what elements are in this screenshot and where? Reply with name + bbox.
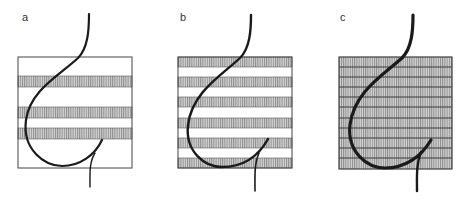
panel-label: a bbox=[22, 11, 29, 23]
panel-c: c bbox=[339, 11, 452, 191]
hatched-stripe bbox=[18, 128, 132, 139]
panel-b: b bbox=[178, 11, 292, 191]
hatched-stripe bbox=[18, 76, 132, 87]
hatched-stripe bbox=[18, 107, 132, 118]
panel-a: a bbox=[18, 11, 132, 187]
panel-label: c bbox=[340, 11, 346, 23]
figure-three-panel-hatch-diagram: abc bbox=[0, 0, 470, 200]
hatched-stripe bbox=[178, 118, 292, 128]
panel-label: b bbox=[180, 11, 186, 23]
hatched-stripe bbox=[178, 138, 292, 148]
hatched-stripe bbox=[178, 77, 292, 87]
